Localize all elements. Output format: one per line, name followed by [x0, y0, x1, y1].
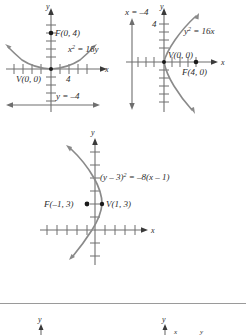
graph-1-vertex-point — [49, 67, 53, 71]
graph-1-svg: y x F(0, 4) V(0, 0) 4 y = –4 x2 = 16y — [0, 0, 124, 118]
graph-2-y-axis-label: y — [159, 2, 164, 11]
graph-5-partial-text: x — [173, 328, 178, 335]
graph-5-y-axis-label: y — [161, 315, 166, 324]
graph-1-directrix-label: y = –4 — [55, 91, 80, 101]
graph-5-partial-text-2: y — [199, 328, 204, 335]
graph-4-svg: y — [34, 314, 74, 335]
graph-3-x-axis-label: x — [150, 226, 155, 235]
section-divider — [0, 303, 246, 304]
graph-2-equation-label: y2 = 16x — [183, 26, 215, 36]
graph-3-y-axis — [92, 138, 98, 265]
graph-1-equation-label: x2 = 16y — [67, 44, 99, 54]
graph-2-focus-label: F(4, 0) — [181, 67, 207, 77]
graph-3-container: y x F(–1, 3) V(1, 3) (y – 3)2 = –8(x – 1… — [30, 120, 220, 285]
graph-1-directrix-line — [6, 102, 100, 107]
graph-3-svg: y x F(–1, 3) V(1, 3) (y – 3)2 = –8(x – 1… — [30, 120, 220, 285]
graph-5-y-axis-arrow — [163, 324, 168, 330]
graph-2-directrix-label: x = –4 — [124, 7, 149, 17]
graph-4-y-axis-arrow — [39, 324, 44, 330]
graph-1-x-axis-label: x — [104, 65, 109, 74]
graph-2-vertex-point — [162, 60, 166, 64]
graph-3-y-axis-label: y — [90, 128, 95, 137]
graph-2-x-axis-label: x — [220, 58, 225, 67]
graph-1-y-axis-label: y — [45, 2, 50, 11]
graph-2-vertex-label: V(0, 0) — [168, 50, 193, 60]
graph-1-y-axis — [48, 8, 54, 112]
graph-3-equation-label: (y – 3)2 = –8(x – 1) — [100, 172, 170, 182]
graph-2-directrix-line — [129, 18, 134, 110]
graph-1-focus-label: F(0, 4) — [54, 28, 80, 38]
graph-1-container: y x F(0, 4) V(0, 0) 4 y = –4 x2 = 16y — [0, 0, 124, 118]
graph-4-container: y — [34, 314, 74, 335]
graph-3-vertex-point — [100, 202, 104, 206]
graph-2-container: y x x = –4 4 V(0, 0) F(4, 0) y2 = 16x — [124, 0, 246, 118]
graph-3-focus-label: F(–1, 3) — [43, 199, 74, 209]
graph-2-focus-point — [194, 60, 199, 65]
graph-5-svg: y x y — [158, 314, 244, 335]
graph-2-tick-label: 4 — [152, 19, 157, 29]
graph-5-container: y x y — [158, 314, 244, 335]
graph-1-vertex-label: V(0, 0) — [16, 74, 41, 84]
graph-1-focus-point — [49, 31, 54, 36]
graph-4-y-axis-label: y — [37, 315, 42, 324]
graph-3-focus-point — [85, 202, 90, 207]
graph-2-svg: y x x = –4 4 V(0, 0) F(4, 0) y2 = 16x — [124, 0, 246, 118]
graph-3-vertex-label: V(1, 3) — [106, 199, 131, 209]
graph-1-tick-label: 4 — [66, 74, 71, 84]
